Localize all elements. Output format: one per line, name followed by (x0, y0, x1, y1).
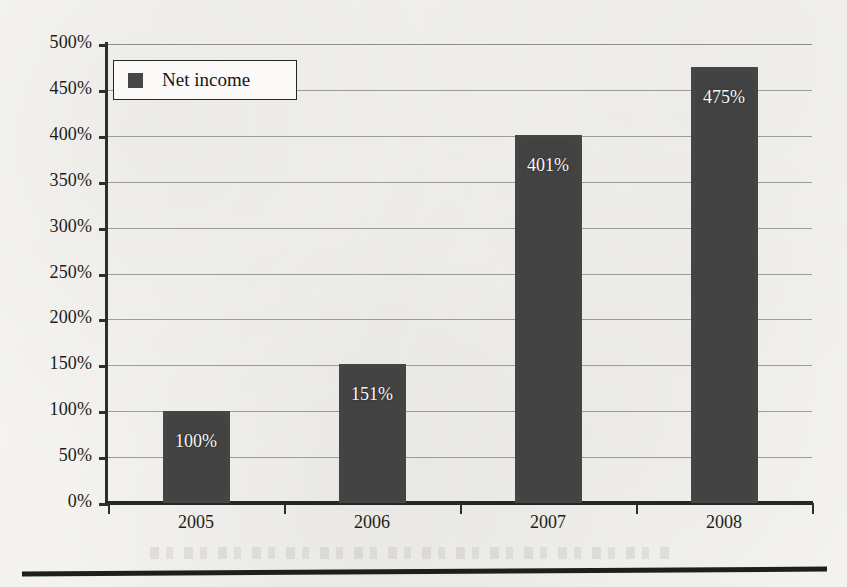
y-axis-tick (99, 228, 108, 231)
page-separator-rule (22, 567, 827, 577)
y-axis-label: 100% (0, 399, 92, 420)
y-axis-tick (99, 365, 108, 368)
chart-legend: Net income (113, 60, 297, 100)
y-axis-tick (99, 503, 108, 506)
bar-2007 (515, 135, 582, 503)
legend-label-net-income: Net income (162, 69, 250, 91)
y-axis-label: 200% (0, 307, 92, 328)
x-axis-label-2006: 2006 (312, 512, 432, 533)
y-axis-label: 400% (0, 124, 92, 145)
y-axis-tick (99, 457, 108, 460)
x-axis-label-2005: 2005 (136, 512, 256, 533)
bar-value-2007: 401% (488, 155, 608, 176)
x-axis-tick (636, 503, 638, 514)
page-bleed-through (150, 547, 670, 559)
y-axis-tick (99, 182, 108, 185)
x-axis-start-tick (108, 503, 110, 514)
y-axis-label: 300% (0, 216, 92, 237)
y-axis-tick (99, 136, 108, 139)
x-axis-label-2008: 2008 (664, 512, 784, 533)
x-axis-end-tick (812, 503, 814, 514)
bar-2008 (691, 67, 758, 503)
y-axis-label: 50% (0, 445, 92, 466)
net-income-bar-chart: 0%50%100%150%200%250%300%350%400%450%500… (0, 0, 847, 587)
y-axis-tick (99, 44, 108, 47)
y-axis-tick (99, 411, 108, 414)
bar-value-2008: 475% (664, 87, 784, 108)
y-axis-label: 350% (0, 170, 92, 191)
gridline (108, 44, 812, 45)
x-axis-label-2007: 2007 (488, 512, 608, 533)
y-axis-label: 0% (0, 491, 92, 512)
x-axis-tick (284, 503, 286, 514)
legend-marker-icon (128, 73, 143, 88)
bar-2005 (163, 411, 230, 503)
y-axis-tick (99, 274, 108, 277)
bar-value-2005: 100% (136, 431, 256, 452)
y-axis-label: 500% (0, 32, 92, 53)
bar-value-2006: 151% (312, 384, 432, 405)
y-axis-label: 250% (0, 262, 92, 283)
y-axis-tick (99, 319, 108, 322)
x-axis-tick (460, 503, 462, 514)
y-axis-label: 150% (0, 353, 92, 374)
y-axis-label: 450% (0, 78, 92, 99)
y-axis-tick (99, 90, 108, 93)
